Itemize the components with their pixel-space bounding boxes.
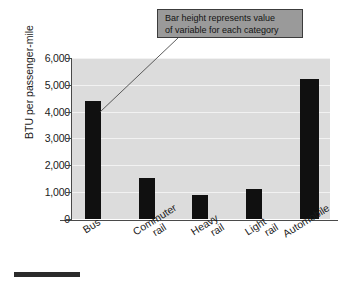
gridline-5000 — [72, 85, 330, 86]
y-tick-mark-0 — [66, 219, 71, 220]
y-axis-title: BTU per passenger-mile — [23, 7, 35, 157]
y-tick-mark-4000 — [66, 112, 71, 113]
y-tick-label-2000: 2,000 — [24, 159, 70, 171]
gridline-6000 — [72, 58, 330, 59]
caption-rule — [14, 272, 80, 277]
y-axis-line — [71, 58, 72, 220]
gridline-1000 — [72, 192, 330, 193]
callout-annotation: Bar height represents value of variable … — [157, 9, 303, 38]
bar-light-rail[interactable] — [246, 189, 262, 219]
y-tick-mark-6000 — [66, 58, 71, 59]
callout-line1: Bar height represents value — [165, 13, 296, 25]
bar-bus[interactable] — [85, 101, 101, 219]
y-tick-mark-3000 — [66, 138, 71, 139]
y-tick-label-0: 0 — [24, 213, 70, 225]
y-tick-mark-1000 — [66, 192, 71, 193]
gridline-3000 — [72, 138, 330, 139]
y-axis: 6,000 5,000 4,000 3,000 2,000 1,000 0 — [12, 0, 70, 285]
gridline-4000 — [72, 112, 330, 113]
bar-chart-figure: 6,000 5,000 4,000 3,000 2,000 1,000 0 BT… — [0, 0, 344, 285]
y-tick-mark-5000 — [66, 85, 71, 86]
gridline-2000 — [72, 165, 330, 166]
callout-line2: of variable for each category — [165, 25, 296, 37]
y-tick-mark-2000 — [66, 165, 71, 166]
bar-automobile[interactable] — [300, 79, 319, 219]
y-tick-label-1000: 1,000 — [24, 186, 70, 198]
plot-area — [72, 58, 330, 219]
